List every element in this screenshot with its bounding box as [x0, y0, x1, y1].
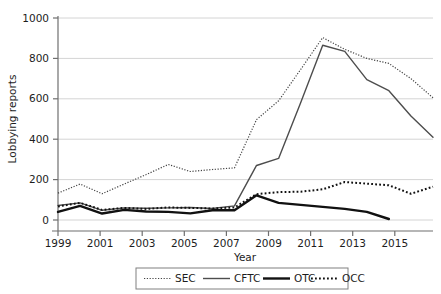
grid-lines	[58, 18, 433, 220]
y-tick-label-1000: 1000	[22, 12, 49, 24]
x-tick-label-2007: 2007	[213, 237, 240, 249]
x-tick-label-2015: 2015	[381, 237, 408, 249]
y-tick-label-200: 200	[29, 173, 49, 185]
chart-svg: 1000 800 600 400 200 0 Lobbying reports …	[0, 0, 441, 294]
legend-label-cftc[interactable]: CFTC	[234, 272, 260, 284]
x-tick-label-2005: 2005	[171, 237, 198, 249]
y-tick-label-800: 800	[29, 52, 49, 64]
data-series-group	[58, 38, 433, 219]
series-line-cftc	[58, 45, 433, 210]
y-tick-label-400: 400	[29, 133, 49, 145]
x-axis-title: Year	[233, 251, 257, 263]
x-tick-label-2001: 2001	[87, 237, 114, 249]
x-tick-label-2011: 2011	[297, 237, 324, 249]
series-line-sec	[58, 38, 433, 194]
legend: SEC CFTC OTC OCC	[136, 268, 365, 289]
x-tick-label-2009: 2009	[255, 237, 282, 249]
x-tick-label-2003: 2003	[129, 237, 156, 249]
line-chart-figure: 1000 800 600 400 200 0 Lobbying reports …	[0, 0, 441, 294]
x-tick-label-1999: 1999	[45, 237, 72, 249]
x-axis: 1999 2001 2003 2005 2007 2009 2011 2013 …	[45, 231, 433, 263]
y-axis-title: Lobbying reports	[6, 75, 18, 164]
y-axis: 1000 800 600 400 200 0 Lobbying reports	[6, 12, 58, 232]
legend-label-sec[interactable]: SEC	[175, 272, 196, 284]
legend-label-occ[interactable]: OCC	[342, 272, 365, 284]
y-tick-label-600: 600	[29, 92, 49, 104]
x-tick-label-2013: 2013	[339, 237, 366, 249]
y-tick-label-0: 0	[42, 214, 49, 226]
